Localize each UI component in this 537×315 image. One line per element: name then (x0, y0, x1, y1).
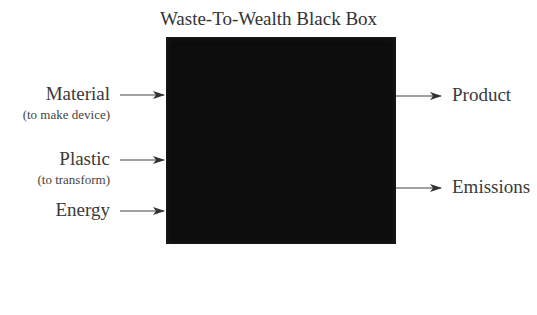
output-product-label: Product (452, 84, 511, 106)
output-emissions-label: Emissions (452, 176, 530, 198)
input-plastic-sublabel: (to transform) (37, 172, 110, 188)
input-material-sublabel: (to make device) (23, 107, 110, 123)
input-material-label: Material (46, 83, 110, 105)
input-energy-label: Energy (55, 199, 110, 221)
input-plastic-label: Plastic (59, 148, 110, 170)
